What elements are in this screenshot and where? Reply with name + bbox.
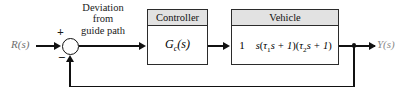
arrowhead-into-sum-feedback bbox=[66, 55, 74, 62]
deviation-annotation-line1: Deviation bbox=[57, 2, 149, 13]
deviation-annotation: Deviation from guide path bbox=[57, 2, 149, 36]
wire-feedback-down bbox=[353, 45, 355, 87]
deviation-annotation-line3: guide path bbox=[57, 25, 149, 36]
controller-tf-arg: (s) bbox=[177, 37, 190, 51]
wire-feedback-across bbox=[69, 86, 354, 88]
vehicle-tf-numerator: 1 bbox=[235, 39, 249, 51]
block-vehicle: Vehicle 1 s(τ1s + 1)(τ2s + 1) bbox=[231, 9, 339, 65]
controller-tf-base: G bbox=[165, 37, 174, 51]
arrowhead-into-controller bbox=[139, 42, 146, 50]
deviation-annotation-line2: from bbox=[57, 13, 149, 24]
block-controller-header: Controller bbox=[148, 10, 207, 26]
block-controller: Controller Gc(s) bbox=[147, 9, 208, 65]
den-mid2: s + 1 bbox=[307, 40, 329, 51]
wire-feedback-up bbox=[69, 60, 71, 86]
arrowhead-into-vehicle bbox=[223, 42, 230, 50]
arrowhead-into-sum bbox=[54, 42, 61, 50]
den-close2: ) bbox=[328, 40, 332, 51]
arrowhead-output bbox=[369, 42, 376, 50]
input-signal-label: R(s) bbox=[11, 38, 29, 50]
vehicle-tf-denominator: s(τ1s + 1)(τ2s + 1) bbox=[253, 40, 335, 51]
block-vehicle-transfer-function: 1 s(τ1s + 1)(τ2s + 1) bbox=[232, 26, 338, 64]
block-controller-transfer-function: Gc(s) bbox=[148, 26, 207, 64]
block-diagram: R(s) + − Deviation from guide path Contr… bbox=[0, 0, 413, 102]
output-signal-label: Y(s) bbox=[377, 38, 395, 50]
sum-minus-sign: − bbox=[58, 50, 65, 66]
wire-sum-to-controller bbox=[79, 45, 141, 47]
wire-input-to-sum bbox=[36, 45, 56, 47]
block-vehicle-header: Vehicle bbox=[232, 10, 338, 26]
den-mid1: s + 1 bbox=[271, 40, 293, 51]
